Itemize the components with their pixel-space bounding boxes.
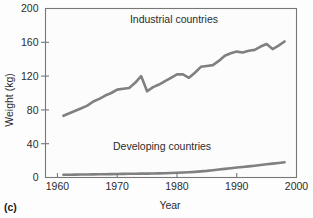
y-tick-label: 160: [21, 36, 39, 48]
x-axis-tick-labels: 19601970198019902000: [46, 180, 309, 192]
x-tick-label: 1990: [225, 180, 249, 192]
series-annotation-label: Industrial countries: [130, 13, 218, 25]
y-axis-title: Weight (kg): [3, 73, 15, 127]
x-tick-label: 1970: [106, 180, 130, 192]
chart-figure: 19601970198019902000 04080120160200 Indu…: [0, 0, 313, 218]
x-tick-label: 1980: [165, 180, 189, 192]
panel-label: (c): [4, 201, 17, 213]
y-tick-label: 120: [21, 70, 39, 82]
y-tick-label: 200: [21, 2, 39, 14]
x-axis-title: Year: [159, 199, 181, 211]
y-tick-label: 40: [27, 138, 39, 150]
y-axis-tick-labels: 04080120160200: [21, 2, 39, 183]
line-chart: 19601970198019902000 04080120160200 Indu…: [0, 0, 313, 218]
x-tick-label: 2000: [285, 180, 309, 192]
x-tick-label: 1960: [46, 180, 70, 192]
y-tick-label: 0: [33, 171, 39, 183]
series-annotation-label: Developing countries: [113, 140, 211, 152]
y-tick-label: 80: [27, 104, 39, 116]
